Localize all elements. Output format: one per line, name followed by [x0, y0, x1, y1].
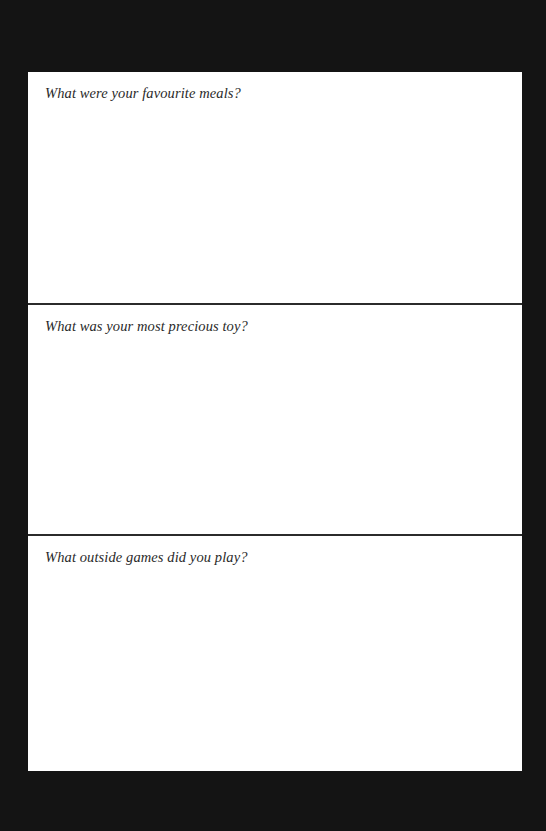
prompt-outside-games: What outside games did you play? [45, 549, 248, 566]
section-favourite-meals: What were your favourite meals? [28, 72, 522, 303]
answer-area-precious-toy[interactable] [45, 341, 505, 524]
section-outside-games: What outside games did you play? [28, 536, 522, 771]
prompt-precious-toy: What was your most precious toy? [45, 318, 248, 335]
answer-area-favourite-meals[interactable] [45, 108, 505, 293]
prompt-favourite-meals: What were your favourite meals? [45, 85, 241, 102]
answer-area-outside-games[interactable] [45, 572, 505, 761]
worksheet-page: What were your favourite meals? What was… [28, 72, 522, 771]
section-precious-toy: What was your most precious toy? [28, 305, 522, 534]
